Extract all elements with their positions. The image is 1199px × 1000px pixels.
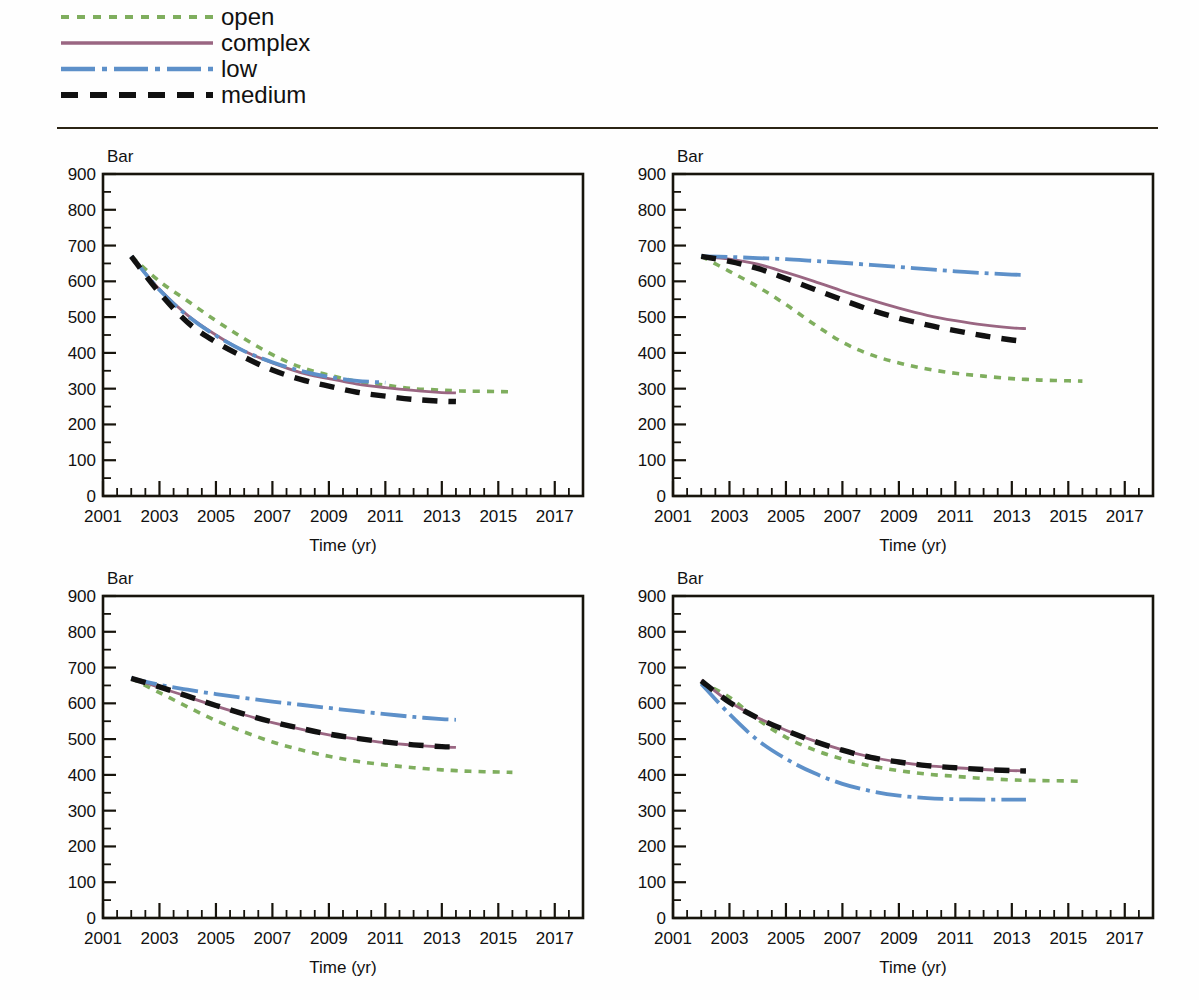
- x-axis-title: Time (yr): [879, 536, 946, 555]
- x-tick-label: 2017: [1106, 929, 1144, 948]
- legend-item-open: open: [57, 4, 557, 30]
- y-tick-label: 400: [638, 344, 666, 363]
- y-tick-label: 400: [68, 766, 96, 785]
- y-tick-label: 0: [87, 909, 96, 928]
- x-tick-label: 2013: [423, 507, 461, 526]
- plot-frame: [103, 596, 583, 918]
- series-line-open: [131, 678, 512, 772]
- x-tick-label: 2011: [367, 929, 404, 948]
- x-tick-label: 2001: [84, 507, 122, 526]
- x-axis-title: Time (yr): [309, 958, 376, 977]
- legend-swatch-medium: [57, 82, 217, 108]
- legend: open complex low medium: [57, 4, 557, 108]
- x-tick-label: 2009: [880, 929, 918, 948]
- x-tick-label: 2015: [1049, 929, 1087, 948]
- y-axis-title: Bar: [677, 569, 704, 588]
- y-tick-label: 900: [638, 165, 666, 184]
- x-tick-label: 2009: [310, 507, 348, 526]
- y-tick-label: 400: [68, 344, 96, 363]
- x-tick-label: 2003: [141, 507, 179, 526]
- y-tick-label: 700: [638, 659, 666, 678]
- y-tick-label: 500: [638, 308, 666, 327]
- x-tick-label: 2007: [253, 929, 291, 948]
- y-tick-label: 300: [638, 802, 666, 821]
- plot-frame: [673, 174, 1153, 496]
- chart-panel-top-right: Bar9008007006005004003002001000200120032…: [617, 140, 1169, 560]
- x-tick-label: 2017: [1106, 507, 1144, 526]
- x-tick-label: 2013: [993, 929, 1031, 948]
- y-tick-label: 300: [638, 380, 666, 399]
- figure-root: open complex low medium: [0, 0, 1199, 1000]
- y-tick-label: 700: [68, 659, 96, 678]
- series-line-complex: [701, 256, 1026, 328]
- legend-item-low: low: [57, 56, 557, 82]
- plot-frame: [673, 596, 1153, 918]
- legend-swatch-low: [57, 56, 217, 82]
- x-tick-label: 2001: [654, 929, 692, 948]
- y-tick-label: 600: [68, 694, 96, 713]
- y-tick-label: 400: [638, 766, 666, 785]
- y-tick-label: 300: [68, 380, 96, 399]
- x-tick-label: 2007: [823, 507, 861, 526]
- series-line-complex: [701, 680, 1026, 771]
- header-divider-rule: [57, 127, 1158, 129]
- y-axis-title: Bar: [677, 147, 704, 166]
- legend-label-complex: complex: [217, 30, 310, 56]
- y-tick-label: 700: [68, 237, 96, 256]
- chart-panel-top-left: Bar9008007006005004003002001000200120032…: [47, 140, 599, 560]
- chart-svg: Bar9008007006005004003002001000200120032…: [47, 140, 599, 560]
- legend-swatch-complex: [57, 30, 217, 56]
- legend-label-open: open: [217, 4, 274, 30]
- x-axis-title: Time (yr): [309, 536, 376, 555]
- series-line-open: [701, 256, 1082, 381]
- y-tick-label: 900: [68, 165, 96, 184]
- y-tick-label: 0: [657, 487, 666, 506]
- x-tick-label: 2003: [711, 929, 749, 948]
- series-line-medium: [131, 256, 456, 401]
- x-tick-label: 2011: [937, 929, 974, 948]
- chart-svg: Bar9008007006005004003002001000200120032…: [617, 140, 1169, 560]
- y-tick-label: 600: [68, 272, 96, 291]
- y-tick-label: 800: [68, 623, 96, 642]
- y-tick-label: 200: [68, 837, 96, 856]
- y-tick-label: 800: [638, 201, 666, 220]
- series-line-low: [701, 256, 1026, 275]
- series-line-medium: [701, 681, 1026, 771]
- x-tick-label: 2011: [937, 507, 974, 526]
- series-line-open: [701, 682, 1082, 781]
- x-tick-label: 2009: [880, 507, 918, 526]
- series-line-complex: [131, 256, 456, 393]
- legend-item-medium: medium: [57, 82, 557, 108]
- x-tick-label: 2005: [197, 507, 235, 526]
- legend-swatch-open: [57, 4, 217, 30]
- chart-panel-bottom-right: Bar9008007006005004003002001000200120032…: [617, 562, 1169, 982]
- chart-svg: Bar9008007006005004003002001000200120032…: [47, 562, 599, 982]
- x-tick-label: 2011: [367, 507, 404, 526]
- x-tick-label: 2007: [253, 507, 291, 526]
- legend-label-low: low: [217, 56, 257, 82]
- y-tick-label: 200: [68, 415, 96, 434]
- y-tick-label: 800: [68, 201, 96, 220]
- x-tick-label: 2001: [654, 507, 692, 526]
- y-tick-label: 600: [638, 272, 666, 291]
- series-line-low: [131, 678, 456, 720]
- x-tick-label: 2005: [767, 929, 805, 948]
- x-tick-label: 2013: [993, 507, 1031, 526]
- legend-label-medium: medium: [217, 82, 306, 108]
- x-tick-label: 2015: [479, 929, 517, 948]
- x-tick-label: 2003: [711, 507, 749, 526]
- x-tick-label: 2007: [823, 929, 861, 948]
- y-tick-label: 100: [638, 451, 666, 470]
- x-tick-label: 2003: [141, 929, 179, 948]
- plot-frame: [103, 174, 583, 496]
- y-tick-label: 300: [68, 802, 96, 821]
- y-axis-title: Bar: [107, 147, 134, 166]
- x-tick-label: 2015: [1049, 507, 1087, 526]
- x-tick-label: 2001: [84, 929, 122, 948]
- y-tick-label: 700: [638, 237, 666, 256]
- y-tick-label: 800: [638, 623, 666, 642]
- y-tick-label: 900: [68, 587, 96, 606]
- y-tick-label: 100: [638, 873, 666, 892]
- y-tick-label: 500: [68, 308, 96, 327]
- y-tick-label: 500: [68, 730, 96, 749]
